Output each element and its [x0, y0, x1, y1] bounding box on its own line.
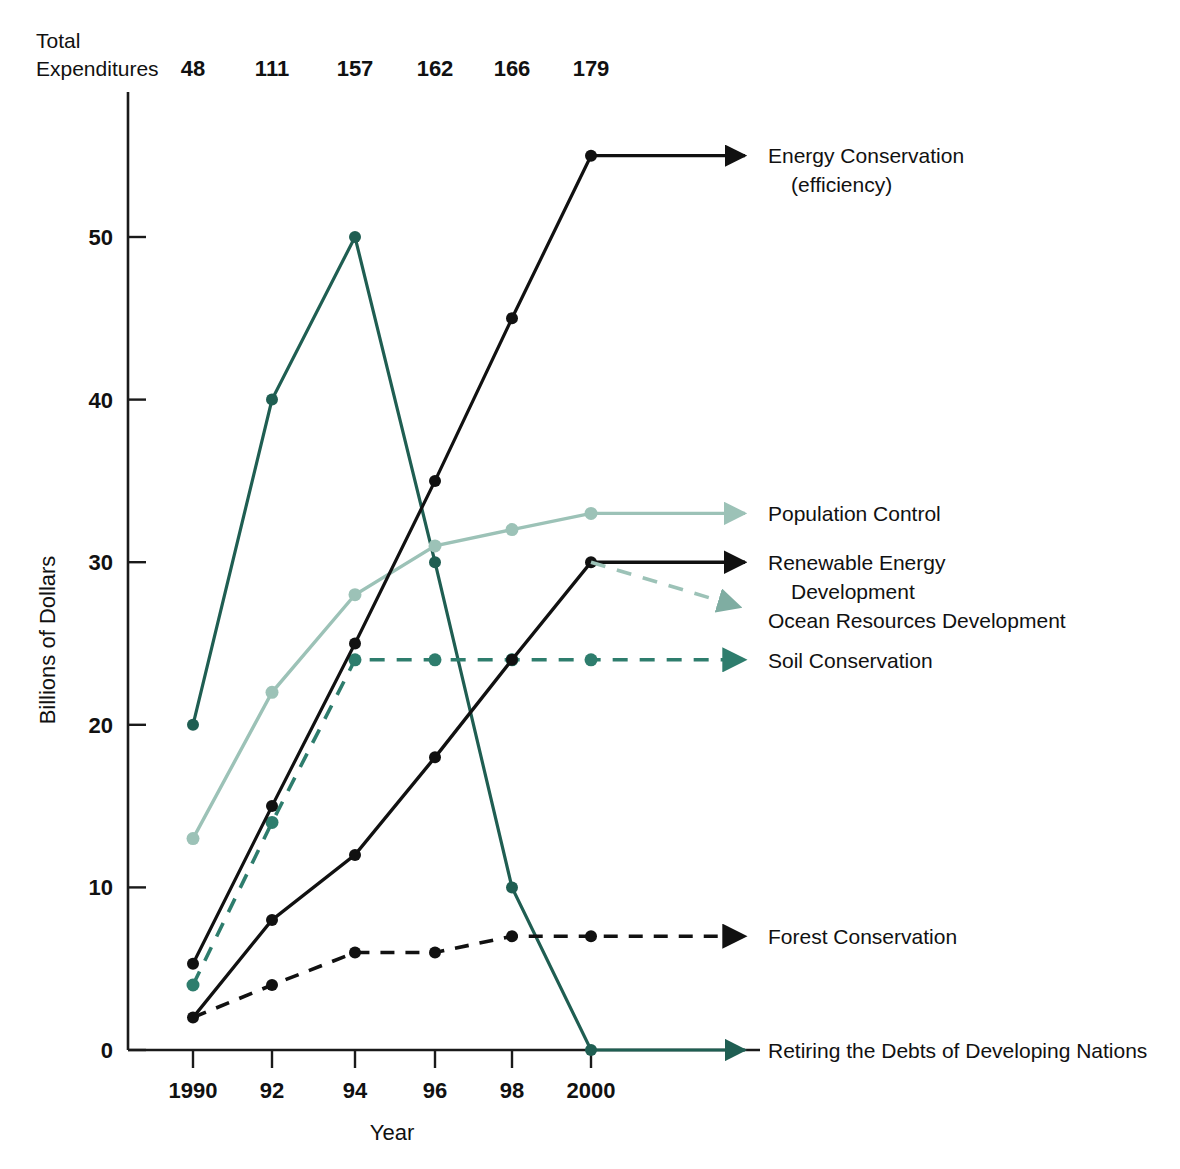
population-control-point-1998	[506, 523, 519, 536]
energy-conservation-point-2000	[585, 150, 597, 162]
label-energy-conservation-line2: (efficiency)	[791, 173, 892, 196]
soil-conservation-point-2000	[585, 653, 598, 666]
retiring-debts-point-1996	[429, 556, 441, 568]
population-control-point-1992	[266, 686, 279, 699]
y-tick-label-20: 20	[89, 713, 113, 738]
x-tick-label-1994: 94	[343, 1078, 368, 1103]
label-energy-conservation-line1: Energy Conservation	[768, 144, 964, 167]
label-soil-conservation: Soil Conservation	[768, 649, 933, 672]
energy-conservation-line	[193, 156, 745, 964]
header-value-1992: 111	[255, 56, 289, 81]
soil-conservation-point-1990	[187, 979, 200, 992]
series-forest-conservation	[193, 930, 745, 1017]
label-renewable-energy-line1: Renewable Energy	[768, 551, 946, 574]
y-tick-label-40: 40	[89, 388, 113, 413]
population-control-point-2000	[585, 507, 598, 520]
series-ocean-resources	[591, 562, 740, 607]
retiring-debts-point-2000	[585, 1044, 597, 1056]
renewable-energy-point-1994	[349, 849, 361, 861]
y-tick-label-30: 30	[89, 550, 113, 575]
header-value-2000: 179	[573, 56, 610, 81]
x-tick-label-1990: 1990	[169, 1078, 218, 1103]
y-tick-label-50: 50	[89, 225, 113, 250]
energy-conservation-point-1992	[266, 800, 278, 812]
retiring-debts-point-1994	[349, 231, 361, 243]
label-population-control: Population Control	[768, 502, 941, 525]
header-value-1990: 48	[181, 56, 205, 81]
renewable-energy-point-1996	[429, 751, 441, 763]
series-label-group: Energy Conservation (efficiency) Populat…	[768, 144, 1147, 1062]
y-axis-title: Billions of Dollars	[35, 556, 60, 725]
header-label-line2: Expenditures	[36, 57, 159, 80]
forest-conservation-point-1998	[506, 930, 518, 942]
energy-conservation-point-1990	[187, 958, 199, 970]
header-value-1996: 162	[417, 56, 454, 81]
y-tick-label-0: 0	[101, 1038, 113, 1063]
forest-conservation-line	[193, 936, 745, 1017]
header-value-1994: 157	[337, 56, 374, 81]
chart-page: Total Expenditures 48 111 157 162 166 17…	[0, 0, 1180, 1169]
label-ocean-resources: Ocean Resources Development	[768, 609, 1066, 632]
population-control-point-1990	[187, 832, 200, 845]
label-forest-conservation: Forest Conservation	[768, 925, 957, 948]
x-tick-label-1996: 96	[423, 1078, 447, 1103]
retiring-debts-point-1998	[506, 881, 518, 893]
series-soil-conservation	[187, 653, 746, 991]
header-label-line1: Total	[36, 29, 80, 52]
series-population-control	[187, 507, 746, 845]
forest-conservation-point-1992	[266, 979, 278, 991]
population-control-point-1994	[349, 588, 362, 601]
energy-conservation-point-1994	[349, 638, 361, 650]
forest-conservation-point-1996	[429, 947, 441, 959]
y-tick-label-10: 10	[89, 875, 113, 900]
energy-conservation-point-1996	[429, 475, 441, 487]
forest-conservation-point-2000	[585, 930, 597, 942]
series-retiring-debts	[187, 231, 745, 1056]
retiring-debts-line	[193, 237, 745, 1050]
x-tick-label-1992: 92	[260, 1078, 284, 1103]
x-axis-title: Year	[370, 1120, 414, 1145]
renewable-energy-point-1992	[266, 914, 278, 926]
soil-conservation-point-1996	[429, 653, 442, 666]
retiring-debts-point-1992	[266, 394, 278, 406]
label-retiring-debts: Retiring the Debts of Developing Nations	[768, 1039, 1147, 1062]
x-tick-label-1998: 98	[500, 1078, 524, 1103]
renewable-energy-line	[193, 562, 745, 1017]
ocean-resources-line	[591, 562, 740, 607]
renewable-energy-point-1998	[506, 654, 518, 666]
retiring-debts-point-1990	[187, 719, 199, 731]
line-chart-figure: Total Expenditures 48 111 157 162 166 17…	[0, 0, 1180, 1169]
total-expenditures-header: Total Expenditures 48 111 157 162 166 17…	[36, 29, 609, 81]
label-renewable-energy-line2: Development	[791, 580, 915, 603]
x-tick-label-2000: 2000	[567, 1078, 616, 1103]
series-renewable-energy	[187, 556, 745, 1023]
series-energy-conservation	[187, 150, 745, 970]
forest-conservation-point-1994	[349, 947, 361, 959]
population-control-point-1996	[429, 539, 442, 552]
energy-conservation-point-1998	[506, 312, 518, 324]
header-value-1998: 166	[494, 56, 531, 81]
axis-group: 0 10 20 30 40 50 1990 92 94 96 98 2000 B…	[35, 92, 760, 1145]
